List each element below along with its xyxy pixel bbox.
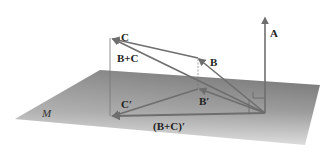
vector-projection-diagram: A C B+C B B′ C′ (B+C)′ M xyxy=(0,0,333,154)
label-b-plus-c-prime: (B+C)′ xyxy=(153,120,185,133)
plane-m xyxy=(15,70,320,145)
label-b: B xyxy=(210,56,218,68)
label-c: C xyxy=(121,31,129,43)
label-a: A xyxy=(270,27,278,39)
label-b-plus-c: B+C xyxy=(117,52,139,64)
label-b-prime: B′ xyxy=(199,95,209,107)
label-c-prime: C′ xyxy=(121,98,132,110)
label-plane-m: M xyxy=(41,107,52,119)
